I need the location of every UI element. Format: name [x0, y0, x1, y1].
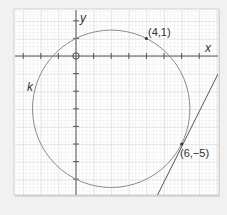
point-label-6-minus5: (6,−5) — [180, 147, 209, 159]
circle-tangent-diagram: y x k (4,1) (6,−5) — [0, 0, 227, 215]
circle-label-k: k — [27, 80, 34, 94]
major-grid — [15, 10, 218, 195]
x-axis-label: x — [204, 41, 212, 55]
y-axis-label: y — [79, 11, 87, 25]
point-6-minus5 — [180, 143, 183, 146]
point-label-4-1: (4,1) — [148, 26, 171, 38]
